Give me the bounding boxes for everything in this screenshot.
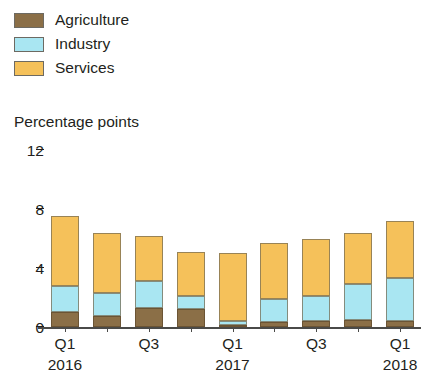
bar-segment-services [260, 243, 288, 299]
bar-column [386, 0, 414, 327]
bar-segment-services [93, 233, 121, 293]
x-axis-quarter-label: Q1 [390, 335, 411, 353]
bar-segment-agriculture [177, 309, 205, 327]
x-axis-quarter-label: Q1 [55, 335, 76, 353]
x-axis-quarter-label: Q3 [306, 335, 327, 353]
bar-segment-industry [219, 321, 247, 325]
y-axis-tick-label: 12 [27, 142, 44, 158]
bar-segment-industry [135, 281, 163, 308]
bar-segment-industry [51, 286, 79, 313]
bar-column [344, 0, 372, 327]
bar-segment-services [344, 233, 372, 285]
bar-segment-services [219, 253, 247, 321]
bar-segment-industry [302, 296, 330, 321]
y-axis-tick-label: 8 [35, 201, 44, 217]
x-axis-tick-mark [191, 328, 192, 332]
x-axis-tick-mark [65, 328, 66, 332]
bar-segment-services [51, 216, 79, 285]
x-axis-tick-mark [274, 328, 275, 332]
bar-segment-services [386, 221, 414, 279]
x-axis-quarter-label: Q3 [138, 335, 159, 353]
y-axis-tick-mark [36, 208, 44, 209]
bar-segment-industry [260, 299, 288, 322]
bar-segment-agriculture [344, 320, 372, 327]
bar-column [93, 0, 121, 327]
bar-segment-agriculture [93, 316, 121, 327]
x-axis-quarter-label: Q1 [222, 335, 243, 353]
x-axis-year-label: 2016 [48, 356, 82, 374]
x-axis-year-label: 2018 [383, 356, 417, 374]
y-axis-tick-label: 4 [35, 260, 44, 276]
y-axis-tick-mark [36, 149, 44, 150]
bar-segment-industry [93, 293, 121, 316]
bar-segment-services [135, 236, 163, 282]
y-axis-ticks: 04812 [6, 0, 44, 379]
y-axis-tick-mark [36, 267, 44, 268]
x-axis-baseline [38, 327, 421, 329]
bar-segment-industry [344, 284, 372, 319]
x-axis-tick-mark [316, 328, 317, 332]
x-axis-tick-mark [358, 328, 359, 332]
x-axis-year-label: 2017 [215, 356, 249, 374]
bar-segment-industry [177, 296, 205, 309]
bar-segment-agriculture [135, 308, 163, 327]
bar-column [135, 0, 163, 327]
bar-segment-services [302, 239, 330, 297]
x-axis-tick-mark [400, 328, 401, 332]
x-axis-tick-mark [107, 328, 108, 332]
bar-column [260, 0, 288, 327]
bar-column [302, 0, 330, 327]
bar-column [219, 0, 247, 327]
bar-segment-agriculture [51, 312, 79, 327]
bar-segment-industry [386, 278, 414, 321]
x-axis-tick-mark [149, 328, 150, 332]
stacked-bar-chart: 04812 Q1Q3Q1Q3Q1201620172018 [0, 0, 426, 379]
bar-column [51, 0, 79, 327]
x-axis-tick-mark [233, 328, 234, 332]
bar-segment-services [177, 252, 205, 296]
bar-column [177, 0, 205, 327]
